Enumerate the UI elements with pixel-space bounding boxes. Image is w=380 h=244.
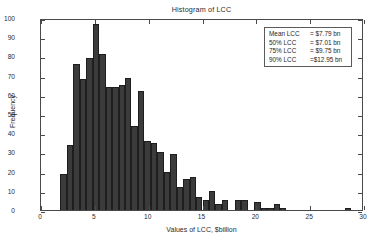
x-tick-mark: [310, 20, 311, 24]
statistic-row: Mean LCC= $7.79 bn: [269, 30, 348, 39]
x-tick-mark: [149, 206, 150, 210]
statistic-row: 90% LCC=$12.95 bn: [269, 56, 348, 65]
y-tick-mark: [358, 58, 362, 59]
y-tick-label: 80: [0, 53, 15, 60]
x-tick-mark: [364, 206, 365, 210]
y-tick-label: 70: [0, 73, 15, 80]
y-tick-mark: [41, 97, 45, 98]
x-tick-label: 15: [187, 213, 217, 220]
x-tick-label: 25: [294, 213, 324, 220]
x-tick-label: 0: [25, 213, 55, 220]
x-tick-label: 5: [79, 213, 109, 220]
statistics-legend-box: Mean LCC= $7.79 bn50% LCC= $7.01 bn75% L…: [264, 27, 352, 67]
histogram-bar: [345, 208, 351, 210]
histogram-bar: [241, 200, 247, 210]
y-tick-label: 100: [0, 15, 15, 22]
x-tick-mark: [364, 20, 365, 24]
statistic-value: =$12.95 bn: [310, 56, 348, 65]
y-tick-label: 40: [0, 130, 15, 137]
histogram-figure: Histogram of LCC Frequency Values of LCC…: [0, 0, 380, 244]
statistic-label: 90% LCC: [269, 56, 310, 65]
y-tick-mark: [41, 116, 45, 117]
y-tick-label: 0: [0, 207, 15, 214]
y-tick-mark: [358, 97, 362, 98]
x-tick-mark: [256, 20, 257, 24]
x-tick-mark: [41, 206, 42, 210]
y-tick-label: 50: [0, 111, 15, 118]
y-tick-label: 60: [0, 92, 15, 99]
y-tick-mark: [358, 39, 362, 40]
statistic-label: 50% LCC: [269, 39, 310, 48]
y-tick-mark: [358, 135, 362, 136]
y-tick-label: 10: [0, 188, 15, 195]
x-tick-mark: [95, 20, 96, 24]
histogram-bar: [222, 200, 228, 210]
histogram-bar: [280, 208, 286, 210]
x-tick-label: 20: [240, 213, 270, 220]
y-tick-mark: [358, 174, 362, 175]
x-axis-label: Values of LCC, $billion: [40, 226, 363, 233]
y-tick-mark: [41, 212, 45, 213]
x-tick-mark: [256, 206, 257, 210]
statistic-label: 75% LCC: [269, 47, 310, 56]
statistic-label: Mean LCC: [269, 30, 310, 39]
y-tick-mark: [41, 39, 45, 40]
statistic-value: = $7.79 bn: [310, 30, 348, 39]
statistic-value: = $7.01 bn: [310, 39, 348, 48]
x-tick-mark: [203, 20, 204, 24]
y-tick-label: 20: [0, 169, 15, 176]
x-tick-mark: [203, 206, 204, 210]
y-tick-mark: [41, 174, 45, 175]
statistic-row: 50% LCC= $7.01 bn: [269, 39, 348, 48]
x-tick-mark: [95, 206, 96, 210]
y-tick-mark: [358, 154, 362, 155]
chart-title: Histogram of LCC: [40, 5, 363, 14]
y-tick-label: 30: [0, 149, 15, 156]
x-tick-mark: [310, 206, 311, 210]
statistic-value: = $9.75 bn: [310, 47, 348, 56]
y-tick-mark: [358, 20, 362, 21]
y-tick-mark: [41, 193, 45, 194]
statistic-row: 75% LCC= $9.75 bn: [269, 47, 348, 56]
y-tick-mark: [41, 135, 45, 136]
x-tick-label: 10: [133, 213, 163, 220]
y-tick-mark: [41, 78, 45, 79]
y-tick-mark: [41, 154, 45, 155]
y-tick-mark: [358, 116, 362, 117]
y-tick-mark: [358, 212, 362, 213]
y-tick-mark: [41, 58, 45, 59]
x-tick-mark: [149, 20, 150, 24]
y-tick-mark: [358, 78, 362, 79]
y-tick-label: 90: [0, 34, 15, 41]
y-tick-mark: [358, 193, 362, 194]
x-tick-mark: [41, 20, 42, 24]
x-tick-label: 30: [348, 213, 378, 220]
